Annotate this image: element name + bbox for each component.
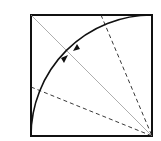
geometry-diagram xyxy=(0,0,161,141)
dashed-line-left xyxy=(31,87,152,136)
diagonal xyxy=(31,15,152,136)
arrow-down-icon xyxy=(73,44,80,51)
dashed-line-top xyxy=(101,15,152,136)
